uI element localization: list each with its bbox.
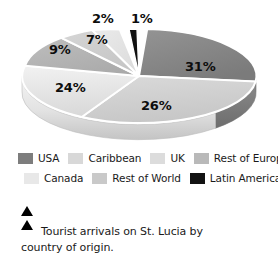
figure-caption-block: Tourist arrivals on St. Lucia by country… [0, 200, 278, 270]
legend-label-latin-america: Latin America [210, 172, 278, 184]
pie-label-rest-of-europe: 7% [86, 32, 108, 47]
legend-swatch-canada [24, 173, 39, 184]
legend-swatch-rest-of-europe [194, 153, 209, 164]
caption-line-2: country of origin. [21, 240, 261, 256]
legend-item-canada: Canada [24, 168, 83, 188]
legend-item-uk: UK [150, 148, 184, 168]
legend-row-2: Canada Rest of World Latin America [0, 168, 278, 188]
pie-label-rest-of-world: 2% [92, 11, 114, 26]
legend-swatch-uk [150, 153, 165, 164]
chart-legend: USA Caribbean UK Rest of Europe Canada [0, 148, 278, 194]
legend-item-caribbean: Caribbean [68, 148, 141, 168]
pie-chart-figure: 31% 26% 24% 9% 7% 2% 1% USA Caribbean UK [0, 0, 278, 270]
legend-item-rest-of-world: Rest of World [92, 168, 180, 188]
legend-swatch-rest-of-world [92, 173, 107, 184]
legend-swatch-latin-america [190, 173, 205, 184]
triangle-up-icon [21, 206, 33, 216]
legend-item-usa: USA [18, 148, 59, 168]
legend-swatch-caribbean [68, 153, 83, 164]
pie-label-latin-america: 1% [131, 11, 153, 26]
legend-label-caribbean: Caribbean [88, 152, 141, 164]
pie-label-usa: 31% [185, 59, 216, 74]
legend-label-canada: Canada [44, 172, 83, 184]
pie-label-uk: 9% [49, 42, 71, 57]
pie-label-caribbean: 26% [141, 98, 172, 113]
legend-item-latin-america: Latin America [190, 168, 278, 188]
pie-label-canada: 24% [55, 80, 86, 95]
legend-label-usa: USA [38, 152, 59, 164]
legend-swatch-usa [18, 153, 33, 164]
legend-item-rest-of-europe: Rest of Europe [194, 148, 278, 168]
legend-label-uk: UK [170, 152, 184, 164]
legend-row-1: USA Caribbean UK Rest of Europe [0, 148, 278, 168]
legend-label-rest-of-europe: Rest of Europe [214, 152, 278, 164]
legend-label-rest-of-world: Rest of World [112, 172, 180, 184]
caption-line-1: Tourist arrivals on St. Lucia by [21, 224, 261, 240]
pie-chart-graphic: 31% 26% 24% 9% 7% 2% 1% [0, 4, 278, 146]
figure-caption-text: Tourist arrivals on St. Lucia by country… [21, 224, 261, 256]
